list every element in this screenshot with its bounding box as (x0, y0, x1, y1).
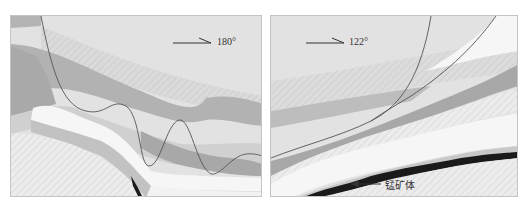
rock-band (11, 16, 41, 28)
cross-section-panel-122: 122° 锰矿体 (270, 15, 518, 197)
cross-section-panel-180: 180° (10, 15, 262, 197)
ore-body-label: 锰矿体 (385, 177, 415, 192)
direction-label-122: 122° (349, 36, 368, 47)
cross-section-right-svg (271, 16, 518, 197)
direction-label-180: 180° (217, 36, 236, 47)
